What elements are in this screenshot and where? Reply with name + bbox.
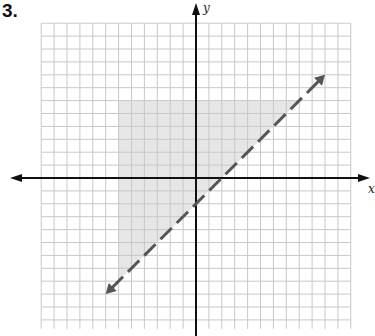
y-axis-arrow-icon <box>192 3 200 15</box>
coordinate-graph: yx <box>0 0 375 336</box>
x-axis-arrow-left-icon <box>10 174 22 182</box>
x-axis-label: x <box>368 182 375 196</box>
x-axis-arrow-right-icon <box>358 174 370 182</box>
y-axis-label: y <box>202 1 210 15</box>
